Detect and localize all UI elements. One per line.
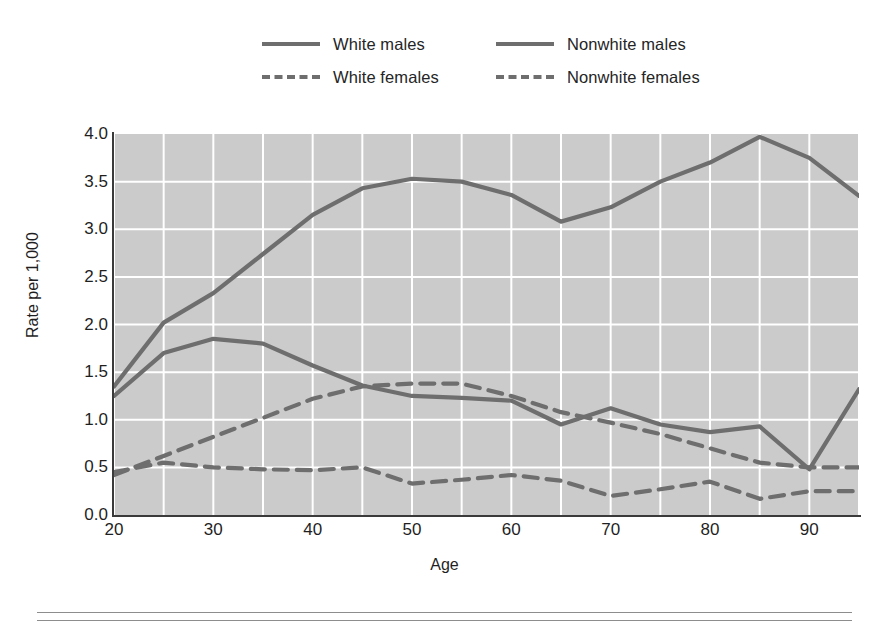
y-tick-label: 3.0 (62, 220, 108, 237)
series-lines (114, 137, 859, 499)
y-axis-ticks: 0.00.51.01.52.02.53.03.54.0 (52, 0, 108, 639)
y-axis-label: Rate per 1,000 (24, 190, 42, 380)
legend-item-nonwhite-females: Nonwhite females (496, 66, 700, 88)
x-axis-label: Age (0, 556, 889, 574)
x-tick-label: 50 (390, 521, 434, 538)
legend-label: White males (333, 36, 425, 53)
x-tick-label: 60 (489, 521, 533, 538)
legend-label: Nonwhite females (567, 69, 700, 86)
legend-swatch-solid-icon (496, 42, 554, 46)
x-tick-label: 70 (589, 521, 633, 538)
y-tick-label: 0.5 (62, 458, 108, 475)
x-tick-label: 30 (191, 521, 235, 538)
figure: White males Nonwhite males White females… (0, 0, 889, 639)
legend-item-white-females: White females (262, 66, 439, 88)
x-tick-label: 40 (291, 521, 335, 538)
legend-item-nonwhite-males: Nonwhite males (496, 33, 686, 55)
legend-item-white-males: White males (262, 33, 425, 55)
x-tick-label: 20 (92, 521, 136, 538)
chart-legend: White males Nonwhite males White females… (262, 33, 732, 95)
y-tick-label: 2.5 (62, 268, 108, 285)
y-tick-label: 1.5 (62, 363, 108, 380)
plot-svg (114, 134, 859, 515)
legend-label: White females (333, 69, 439, 86)
x-tick-label: 80 (688, 521, 732, 538)
legend-swatch-solid-icon (262, 42, 320, 46)
legend-swatch-dashed-icon (262, 75, 320, 79)
y-tick-label: 2.0 (62, 316, 108, 333)
legend-swatch-dashed-icon (496, 75, 554, 79)
y-tick-label: 4.0 (62, 125, 108, 142)
plot-area (114, 134, 859, 515)
series-line-nonwhite-males (114, 339, 859, 469)
footer-rule (37, 612, 852, 613)
footer-rule (37, 620, 852, 621)
series-line-white-males (114, 137, 859, 387)
y-axis-line (112, 132, 114, 517)
x-tick-label: 90 (787, 521, 831, 538)
y-tick-label: 3.5 (62, 173, 108, 190)
y-tick-label: 1.0 (62, 411, 108, 428)
legend-label: Nonwhite males (567, 36, 686, 53)
x-axis-line (112, 515, 861, 517)
